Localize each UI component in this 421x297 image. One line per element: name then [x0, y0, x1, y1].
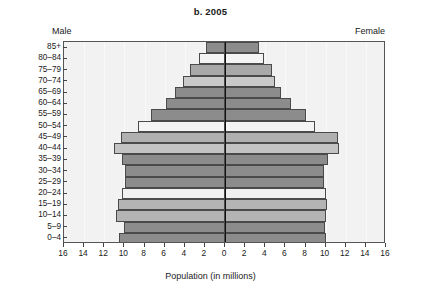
y-axis-tick	[63, 181, 67, 182]
y-axis-tick	[63, 148, 67, 149]
female-series-label: Female	[355, 26, 385, 36]
bar-female-60-64	[225, 98, 291, 109]
y-axis-tick	[63, 47, 67, 48]
center-axis-line	[225, 42, 226, 242]
bar-female-20-24	[225, 188, 326, 199]
population-pyramid-plot	[63, 41, 385, 243]
pyramid-row	[64, 87, 384, 98]
bar-male-0-4	[119, 233, 225, 243]
y-axis-tick	[63, 58, 67, 59]
bar-male-20-24	[122, 188, 225, 199]
bar-female-45-49	[225, 132, 338, 143]
pyramid-row	[64, 177, 384, 188]
pyramid-row	[64, 98, 384, 109]
y-axis-tick	[63, 204, 67, 205]
x-axis-tick	[83, 243, 84, 247]
bar-male-45-49	[121, 132, 225, 143]
x-axis-tick	[385, 243, 386, 247]
bar-female-30-34	[225, 165, 324, 176]
bar-female-40-44	[225, 143, 339, 154]
bar-female-0-4	[225, 233, 326, 243]
y-axis-label-55-59: 55–59	[3, 109, 61, 118]
pyramid-row	[64, 76, 384, 87]
y-axis-label-35-39: 35–39	[3, 154, 61, 163]
bar-female-10-14	[225, 210, 326, 221]
y-axis-tick	[63, 237, 67, 238]
bar-female-55-59	[225, 109, 306, 120]
y-axis-label-10-14: 10–14	[3, 210, 61, 219]
bar-female-75-79	[225, 64, 272, 75]
bar-female-15-19	[225, 199, 327, 210]
bar-male-80-84	[199, 53, 225, 64]
y-axis-label-50-54: 50–54	[3, 121, 61, 130]
bar-male-70-74	[183, 76, 225, 87]
pyramid-row	[64, 154, 384, 165]
y-axis-label-20-24: 20–24	[3, 188, 61, 197]
x-axis-tick	[365, 243, 366, 247]
x-axis-label: 8	[133, 248, 155, 258]
y-axis-label-0-4: 0–4	[3, 233, 61, 242]
y-axis-label-80-84: 80–84	[3, 53, 61, 62]
y-axis-tick	[63, 114, 67, 115]
bar-male-85+	[206, 42, 225, 53]
bar-male-40-44	[114, 143, 225, 154]
bar-male-55-59	[151, 109, 225, 120]
pyramid-row	[64, 210, 384, 221]
pyramid-row	[64, 121, 384, 132]
pyramid-row	[64, 165, 384, 176]
bar-male-35-39	[122, 154, 225, 165]
x-axis-tick	[284, 243, 285, 247]
bar-male-65-69	[175, 87, 225, 98]
y-axis-tick	[63, 125, 67, 126]
y-axis-tick	[63, 136, 67, 137]
y-axis-labels: 0–45–910–1415–1920–2425–2930–3435–3940–4…	[0, 41, 61, 243]
x-axis-tick	[103, 243, 104, 247]
y-axis-label-40-44: 40–44	[3, 143, 61, 152]
y-axis-tick	[63, 69, 67, 70]
x-axis-tick	[144, 243, 145, 247]
male-series-label: Male	[52, 26, 72, 36]
bar-male-50-54	[138, 121, 225, 132]
x-axis-tick	[204, 243, 205, 247]
x-axis-label: 8	[294, 248, 316, 258]
pyramid-row	[64, 222, 384, 233]
pyramid-row	[64, 233, 384, 243]
y-axis-tick	[63, 226, 67, 227]
x-axis-label: 6	[273, 248, 295, 258]
x-axis-label: 16	[52, 248, 74, 258]
y-axis-label-15-19: 15–19	[3, 199, 61, 208]
x-axis-tick	[224, 243, 225, 247]
x-axis-label: 4	[253, 248, 275, 258]
y-axis-label-75-79: 75–79	[3, 65, 61, 74]
pyramid-row	[64, 199, 384, 210]
pyramid-row	[64, 42, 384, 53]
x-axis-tick	[325, 243, 326, 247]
pyramid-row	[64, 53, 384, 64]
y-axis-tick	[63, 170, 67, 171]
x-axis: 1614121086420246810121416	[63, 243, 385, 273]
x-axis-label: 16	[374, 248, 396, 258]
x-axis-label: 10	[314, 248, 336, 258]
pyramid-row	[64, 109, 384, 120]
bar-male-10-14	[116, 210, 225, 221]
y-axis-label-65-69: 65–69	[3, 87, 61, 96]
y-axis-label-25-29: 25–29	[3, 177, 61, 186]
y-axis-label-70-74: 70–74	[3, 76, 61, 85]
y-axis-label-5-9: 5–9	[3, 222, 61, 231]
bar-female-65-69	[225, 87, 281, 98]
x-axis-tick	[184, 243, 185, 247]
x-axis-label: 2	[233, 248, 255, 258]
x-axis-label: 12	[334, 248, 356, 258]
x-axis-label: 0	[213, 248, 235, 258]
bar-female-80-84	[225, 53, 264, 64]
x-axis-tick	[264, 243, 265, 247]
bar-female-85+	[225, 42, 259, 53]
x-axis-title: Population (in millions)	[0, 271, 421, 281]
pyramid-row	[64, 132, 384, 143]
bar-female-70-74	[225, 76, 275, 87]
page-title: b. 2005	[0, 6, 421, 17]
pyramid-row	[64, 188, 384, 199]
x-axis-tick	[305, 243, 306, 247]
y-axis-tick	[63, 80, 67, 81]
bar-male-5-9	[124, 222, 225, 233]
